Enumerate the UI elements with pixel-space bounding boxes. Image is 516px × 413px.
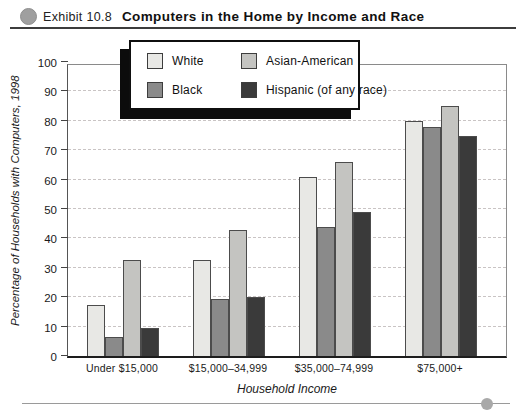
y-tick-80 [61,120,68,121]
bar-white [299,177,317,356]
y-tick-label-60: 60 [27,175,57,187]
y-tick-30 [61,267,68,268]
bar-hispanic-of-any-race [353,212,371,356]
y-tick-label-70: 70 [27,145,57,157]
y-tick-100 [61,61,68,62]
legend-item-label: White [172,54,204,68]
y-tick-label-90: 90 [27,86,57,98]
y-tick-label-80: 80 [27,116,57,128]
bar-black [423,127,441,356]
y-tick-0 [61,355,68,356]
bar-asian-american [441,106,459,356]
x-axis-title: Household Income [67,382,507,396]
exhibit-number: Exhibit 10.8 [43,10,112,24]
bar-hispanic-of-any-race [141,328,159,356]
legend: WhiteAsian-AmericanBlackHispanic (of any… [129,40,360,110]
bar-asian-american [123,260,141,356]
header: Exhibit 10.8 Computers in the Home by In… [43,9,424,24]
legend-item-white: White [147,53,233,69]
y-tick-label-40: 40 [27,233,57,245]
y-tick-70 [61,149,68,150]
bar-black [211,299,229,356]
legend-item-hispanic-of-any-race: Hispanic (of any race) [241,82,387,98]
legend-swatch-icon [241,53,257,69]
page-title: Computers in the Home by Income and Race [122,9,425,24]
footer-rule [22,403,510,404]
bar-white [193,260,211,356]
y-tick-label-100: 100 [27,57,57,69]
y-tick-90 [61,90,68,91]
bar-hispanic-of-any-race [247,297,265,356]
bar-asian-american [335,162,353,356]
exhibit-bullet-icon [20,8,37,25]
legend-item-label: Asian-American [266,54,354,68]
y-tick-40 [61,237,68,238]
bar-asian-american [229,230,247,356]
header-rule [10,27,516,29]
bar-black [105,337,123,356]
y-tick-10 [61,326,68,327]
bar-hispanic-of-any-race [459,136,477,357]
x-tick-label-4: $75,000+ [370,362,510,374]
y-tick-50 [61,208,68,209]
bar-white [405,121,423,356]
footer-bullet-icon [481,398,493,410]
y-tick-label-10: 10 [27,322,57,334]
legend-swatch-icon [241,82,257,98]
legend-item-asian-american: Asian-American [241,53,387,69]
exhibit-figure: Exhibit 10.8 Computers in the Home by In… [0,0,516,413]
y-tick-label-30: 30 [27,263,57,275]
bar-white [87,305,105,356]
legend-swatch-icon [147,82,163,98]
legend-item-label: Hispanic (of any race) [266,83,387,97]
y-axis-title: Percentage of Households with Computers,… [9,106,21,326]
y-tick-60 [61,179,68,180]
legend-item-label: Black [172,83,202,97]
y-tick-20 [61,296,68,297]
bar-black [317,227,335,356]
bar-group-4 [405,65,477,356]
y-tick-label-20: 20 [27,292,57,304]
legend-item-black: Black [147,82,233,98]
y-tick-label-50: 50 [27,204,57,216]
legend-swatch-icon [147,53,163,69]
